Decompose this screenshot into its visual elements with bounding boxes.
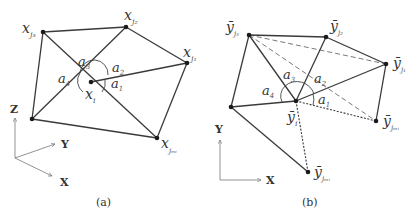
spoke-b-i-left <box>231 101 296 107</box>
node-y-jmi-bottom <box>306 170 311 175</box>
node-y-j1 <box>384 62 389 67</box>
label-y-j3: ȳj₃ <box>225 19 239 38</box>
node-y-i <box>294 99 299 104</box>
z-axis-label: Z <box>10 103 18 116</box>
node-x-j3 <box>41 30 46 35</box>
edge-j1-jmi <box>157 63 187 138</box>
label-y-i: ȳi <box>286 109 298 128</box>
dotted-i-jmi-right <box>296 101 376 121</box>
edge-b-j3-left <box>231 35 249 107</box>
edge-jmi-left <box>32 119 157 138</box>
label-b-a3: a3 <box>283 67 296 84</box>
angle-arc-b-a4 <box>281 86 285 102</box>
caption-b: (b) <box>302 196 318 209</box>
dash-j3-jmi <box>249 35 376 121</box>
node-x-i <box>89 80 94 85</box>
label-a3: a3 <box>78 54 91 71</box>
label-y-j1: ȳj₁ <box>392 55 406 74</box>
b-y-axis-label: Y <box>214 123 223 136</box>
node-y-jmi-right <box>374 119 379 124</box>
b-x-axis-label: X <box>266 174 275 187</box>
caption-a: (a) <box>96 196 111 209</box>
label-b-a4: a4 <box>262 83 274 100</box>
x-axis-label: X <box>60 176 69 189</box>
label-x-j1: xj₁ <box>183 44 197 63</box>
edge-b-j2-j1 <box>326 37 386 64</box>
spoke-b-i-j1 <box>296 64 386 101</box>
node-y-j2 <box>324 35 329 40</box>
x-axis-arrow <box>15 158 52 176</box>
panel-a: xj₃ xj₂ xj₁ xi xjₘᵢ a3 a2 a1 a4 Z Y X (a… <box>10 7 197 209</box>
edge-left-j3 <box>32 32 43 119</box>
label-y-jmi-bottom: ȳjₘᵢ <box>313 164 330 183</box>
label-x-i: xi <box>85 86 96 105</box>
label-y-j2: ȳj₂ <box>329 18 343 37</box>
panel-b: ȳj₃ ȳj₂ ȳj₁ ȳi ȳjₘᵢ ȳjₘᵢ a3 a2 a1 a4 Y X… <box>214 18 406 209</box>
axes-xyz: Z Y X <box>10 103 69 189</box>
y-axis-arrow <box>15 144 55 158</box>
label-x-jmi: xjₘᵢ <box>161 135 177 155</box>
node-x-j1 <box>185 61 190 66</box>
node-y-j3 <box>247 33 252 38</box>
label-a2: a2 <box>112 60 125 77</box>
dash-j3-j1 <box>249 35 386 64</box>
label-a4: a4 <box>58 71 70 88</box>
node-left-a <box>30 117 35 122</box>
label-b-a2: a2 <box>314 71 327 88</box>
dotted-i-jmi-bottom <box>296 101 308 172</box>
label-x-j2: xj₂ <box>124 7 138 26</box>
axes-xy: Y X <box>214 123 275 187</box>
figure: xj₃ xj₂ xj₁ xi xjₘᵢ a3 a2 a1 a4 Z Y X (a… <box>0 0 416 222</box>
angle-arc-a4 <box>78 73 83 92</box>
edge-b-left-bottom <box>231 107 308 172</box>
node-x-jmi <box>155 136 160 141</box>
angle-arc-b-a1 <box>313 94 314 105</box>
edge-j2-j1 <box>126 27 187 63</box>
node-left-b <box>229 105 234 110</box>
y-axis-label: Y <box>60 138 69 151</box>
node-x-j2 <box>124 25 129 30</box>
label-a1: a1 <box>111 76 123 93</box>
edge-j3-j2 <box>43 27 126 32</box>
label-y-jmi-right: ȳjₘᵢ <box>382 113 399 132</box>
edge-b-j3-j2 <box>249 35 326 37</box>
label-x-j3: xj₃ <box>22 20 36 39</box>
label-b-a1: a1 <box>318 92 330 109</box>
